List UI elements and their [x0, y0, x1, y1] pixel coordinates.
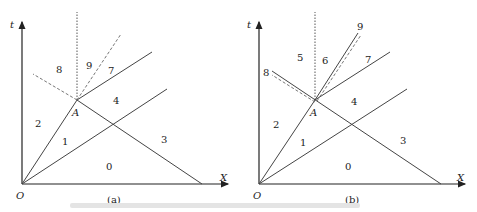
region-2-a: 2	[35, 118, 41, 129]
region-1-a: 1	[62, 136, 68, 147]
region-7-a: 7	[108, 65, 114, 76]
line-a-x-a	[77, 100, 202, 184]
x-label-a: X	[219, 172, 228, 183]
panel-b: t X O A 0 1 2 3 4 5 6 7 8 9 (b)	[247, 12, 465, 205]
region-4-b: 4	[351, 96, 357, 107]
region-8-a: 8	[56, 64, 62, 75]
region-5-b: 5	[297, 52, 303, 63]
dashed-9-b	[317, 35, 361, 101]
point-a-label-a: A	[71, 107, 79, 118]
diagram-canvas: t X O A 0 1 2 3 4 7 8 9 (a) t X O A 0 1 …	[0, 0, 477, 212]
region-0-a: 0	[106, 161, 112, 172]
region-4-a: 4	[113, 95, 119, 106]
t-label-a: t	[10, 19, 15, 30]
region-3-a: 3	[161, 134, 167, 145]
line-oa-b	[259, 100, 315, 184]
line-8-x-b	[272, 71, 441, 184]
line-a-9-b	[315, 33, 358, 100]
origin-label-a: O	[16, 190, 24, 201]
dashed-8-b	[272, 75, 315, 102]
region-9-b: 9	[357, 21, 363, 32]
dashed-8-a	[33, 74, 77, 100]
region-6-b: 6	[322, 55, 328, 66]
dashed-9-a	[77, 34, 121, 100]
region-9-a: 9	[86, 60, 92, 71]
region-7-b: 7	[365, 54, 371, 65]
x-label-b: X	[456, 172, 465, 183]
figure-caption-blurred	[70, 203, 360, 208]
region-2-b: 2	[273, 119, 279, 130]
origin-label-b: O	[253, 190, 261, 201]
line-o-right-b	[259, 89, 407, 184]
point-a-label-b: A	[309, 107, 317, 118]
region-0-b: 0	[345, 161, 351, 172]
line-o-right-a	[22, 89, 167, 184]
line-oa-a	[22, 100, 77, 184]
region-1-b: 1	[300, 137, 306, 148]
panel-a: t X O A 0 1 2 3 4 7 8 9 (a)	[10, 12, 228, 205]
t-label-b: t	[247, 19, 252, 30]
region-3-b: 3	[400, 135, 406, 146]
region-8-b: 8	[263, 67, 269, 78]
